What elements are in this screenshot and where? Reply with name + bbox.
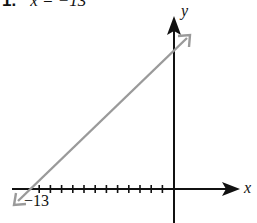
graphed-line bbox=[14, 35, 190, 205]
x-intercept-label: −13 bbox=[24, 192, 49, 210]
y-axis-label: y bbox=[181, 2, 188, 20]
x-axis-label: x bbox=[244, 179, 251, 197]
coordinate-plane bbox=[0, 0, 257, 223]
